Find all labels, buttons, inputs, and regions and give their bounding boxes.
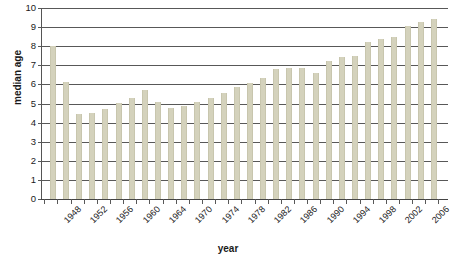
bar	[234, 87, 240, 199]
bar	[299, 68, 305, 199]
y-tick-label: 9	[16, 22, 36, 32]
bar	[76, 114, 82, 199]
x-axis-title: year	[0, 243, 456, 254]
bar	[405, 26, 411, 199]
bar	[286, 68, 292, 199]
x-tick-label: 2002	[403, 204, 424, 225]
bar	[418, 22, 424, 199]
bar	[194, 102, 200, 199]
plot-area	[41, 8, 448, 199]
bar	[63, 82, 69, 199]
x-tick-label: 1948	[62, 204, 83, 225]
bar	[352, 56, 358, 199]
bar	[326, 61, 332, 199]
bar	[168, 108, 174, 199]
bar	[89, 113, 95, 199]
bar	[365, 42, 371, 199]
bar	[260, 78, 266, 199]
x-tick-label: 1986	[298, 204, 319, 225]
bar	[155, 102, 161, 199]
bar-chart: median age 109876543210 1948195219561960…	[0, 0, 456, 264]
bar	[247, 83, 253, 200]
y-tick-label: 3	[16, 137, 36, 147]
x-tick-label: 1956	[114, 204, 135, 225]
y-tick-label: 4	[16, 118, 36, 128]
y-axis-tick-labels: 109876543210	[14, 0, 36, 200]
bar	[221, 93, 227, 199]
bar	[116, 103, 122, 199]
bar	[208, 98, 214, 199]
bar	[378, 39, 384, 199]
bar	[129, 98, 135, 199]
y-tick-label: 1	[16, 175, 36, 185]
bar-series	[42, 8, 448, 199]
bar	[273, 69, 279, 199]
x-axis-tick-labels: 1948195219561960196419701974197819821986…	[41, 204, 447, 238]
bar	[313, 73, 319, 199]
x-tick-label: 2006	[430, 204, 451, 225]
bar	[391, 37, 397, 199]
bar	[142, 90, 148, 199]
y-tick-label: 2	[16, 156, 36, 166]
y-tick-label: 10	[16, 3, 36, 13]
x-tick-label: 1974	[219, 204, 240, 225]
x-tick-label: 1978	[246, 204, 267, 225]
x-tick-label: 1960	[141, 204, 162, 225]
x-tick-label: 1982	[272, 204, 293, 225]
y-tick-label: 7	[16, 61, 36, 71]
y-tick-label: 8	[16, 41, 36, 51]
bar	[102, 109, 108, 199]
bar	[181, 106, 187, 199]
x-tick-label: 1990	[324, 204, 345, 225]
bar	[339, 57, 345, 199]
x-tick-label: 1964	[167, 204, 188, 225]
bar	[50, 46, 56, 199]
x-tick-label: 1952	[88, 204, 109, 225]
x-tick-label: 1994	[351, 204, 372, 225]
x-tick-label: 1998	[377, 204, 398, 225]
x-tick-label: 1970	[193, 204, 214, 225]
y-tick-label: 0	[16, 194, 36, 204]
y-tick-label: 6	[16, 80, 36, 90]
y-tick-label: 5	[16, 99, 36, 109]
bar	[431, 19, 437, 199]
